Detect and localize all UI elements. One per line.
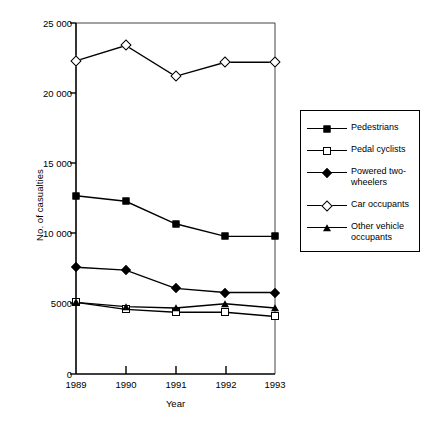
data-point-marker	[73, 192, 80, 199]
series-line	[76, 196, 275, 237]
filled-triangle-icon	[306, 222, 348, 233]
series-lines	[76, 45, 275, 316]
open-diamond-icon	[306, 200, 348, 211]
legend-label: Car occupants	[351, 199, 409, 209]
data-point-marker	[221, 300, 229, 307]
open-square-icon	[306, 145, 348, 156]
legend-item-other-vehicle-occupants[interactable]: Other vehicle occupants	[306, 221, 415, 242]
chart-figure: No. of casualties 25 000 20 000 15 000 1…	[0, 0, 436, 423]
data-point-marker	[222, 233, 229, 240]
data-point-marker	[122, 303, 130, 310]
chart-legend: Pedestrians Pedal cyclists Powered	[300, 110, 420, 252]
legend-label-line2: occupants	[351, 232, 392, 242]
data-point-marker	[221, 308, 229, 316]
legend-label-line2: wheelers	[351, 177, 387, 187]
legend-label: Pedestrians	[351, 122, 399, 132]
data-point-marker	[271, 312, 279, 320]
legend-item-car-occupants[interactable]: Car occupants	[306, 199, 415, 211]
data-point-marker	[72, 299, 80, 306]
legend-item-pedal-cyclists[interactable]: Pedal cyclists	[306, 144, 415, 156]
data-point-marker	[271, 304, 279, 311]
data-point-marker	[172, 220, 179, 227]
data-point-marker	[172, 304, 180, 311]
filled-diamond-icon	[306, 167, 348, 178]
data-point-marker	[272, 233, 279, 240]
legend-label: Powered two-	[351, 166, 406, 176]
legend-label: Pedal cyclists	[351, 144, 406, 154]
legend-item-powered-two-wheelers[interactable]: Powered two- wheelers	[306, 166, 415, 187]
data-point-marker	[122, 198, 129, 205]
legend-item-pedestrians[interactable]: Pedestrians	[306, 122, 415, 134]
filled-square-icon	[306, 123, 348, 134]
x-axis-ticks	[126, 366, 226, 374]
legend-label: Other vehicle	[351, 221, 404, 231]
